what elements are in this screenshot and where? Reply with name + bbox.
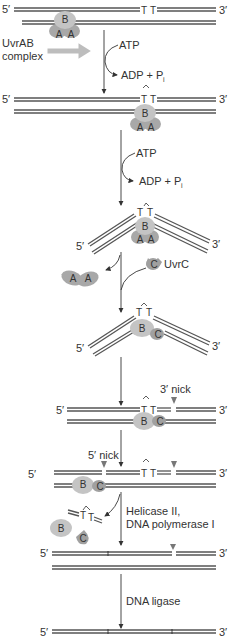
stage-5-dna: 3′ nick 5′ T T 3′ B C [56,383,227,430]
svg-text:T: T [150,468,156,479]
svg-text:T: T [136,307,142,318]
ligase-label: DNA ligase [126,595,180,607]
stage-2-dna: 5′ T T 3′ B A A [2,85,227,133]
svg-text:ADP + P: ADP + P [139,175,181,187]
svg-text:T: T [147,207,153,218]
svg-text:i: i [181,182,183,189]
nick-marker-icon [171,397,177,404]
nick-marker-icon [170,544,176,550]
stage-4-bent-dna: T T 5′ 3′ B C [76,303,220,356]
svg-text:5′: 5′ [56,404,64,416]
svg-text:A: A [148,122,155,133]
svg-text:B: B [142,108,149,119]
svg-text:5′: 5′ [40,547,48,559]
svg-text:B: B [141,416,148,427]
svg-text:A: A [70,273,77,284]
svg-text:3′: 3′ [219,404,227,416]
uvrab-label-line1: UvrAB [2,37,34,49]
uvrc-protein: C [146,258,162,270]
nick-marker-icon [171,461,177,468]
svg-text:T: T [141,94,147,105]
three-prime-label: 3′ [219,4,227,16]
svg-text:C: C [96,481,103,492]
svg-text:3′: 3′ [212,340,220,352]
svg-text:3′: 3′ [219,547,227,559]
svg-text:5′: 5′ [2,93,10,105]
five-prime-label: 5′ [2,3,10,15]
adp-label: ADP + P [121,69,163,81]
thymine-2: T [150,5,156,16]
excised-oligonucleotide: T T [68,506,102,523]
svg-text:A: A [137,122,144,133]
svg-text:A: A [148,234,155,245]
svg-text:B: B [139,323,146,334]
svg-text:3′: 3′ [219,626,227,638]
excision-repair-diagram: 5′ T T 3′ B A A UvrAB complex ATP ADP + … [0,0,237,643]
thymine-1: T [141,5,147,16]
uvrab-label-line2: complex [2,50,43,62]
svg-text:C: C [150,259,157,270]
svg-text:3′: 3′ [212,238,220,250]
uvrc-label: UvrC [164,258,189,270]
svg-text:5′: 5′ [76,240,84,252]
pi-subscript: i [163,76,165,83]
svg-text:5′: 5′ [40,626,48,638]
nick-marker-icon [101,461,107,468]
svg-text:B: B [58,523,65,534]
svg-text:C: C [79,533,86,544]
svg-text:T: T [80,510,86,521]
stage-8-dna: 5′ 3′ [40,626,227,638]
dimer-bond-icon [143,85,149,88]
svg-text:A: A [137,234,144,245]
stage-6-dna: 5′ nick 5′ T T 3′ B C [28,449,227,494]
svg-text:3′: 3′ [219,93,227,105]
atp-hydrolysis-arrow [122,153,135,181]
svg-text:T: T [146,307,152,318]
stage-1-dna: 5′ T T 3′ B A A [2,3,227,40]
svg-text:T: T [137,207,143,218]
svg-text:A: A [85,273,92,284]
five-prime-nick-label: 5′ nick [88,449,119,461]
svg-text:5′: 5′ [28,468,36,480]
svg-text:ATP: ATP [136,147,157,159]
svg-text:B: B [142,221,149,232]
released-uvra-dimer: A A [59,268,100,290]
helicase-label: Helicase II, [126,505,180,517]
polymerase-label: DNA polymerase I [126,518,215,530]
svg-text:T: T [150,94,156,105]
svg-text:A: A [56,29,63,40]
three-prime-nick-label: 3′ nick [160,383,191,395]
svg-text:3′: 3′ [219,467,227,479]
uvrab-complex-bound: B A A [130,104,161,133]
stage-3-bent-dna: T T 5′ 3′ B A A [76,203,220,254]
svg-text:B: B [80,479,87,490]
uvrab-arrow-icon [49,46,88,56]
svg-text:C: C [154,329,161,340]
uvrab-complex: B A A [49,11,80,40]
svg-text:T: T [141,468,147,479]
atp-hydrolysis-arrow [105,45,118,75]
svg-text:C: C [156,416,163,427]
svg-text:B: B [62,14,69,25]
stage-7-dna: 5′ 3′ [40,544,227,569]
svg-text:A: A [68,29,75,40]
svg-text:5′: 5′ [76,342,84,354]
svg-text:T: T [88,512,94,523]
atp-label: ATP [119,39,140,51]
